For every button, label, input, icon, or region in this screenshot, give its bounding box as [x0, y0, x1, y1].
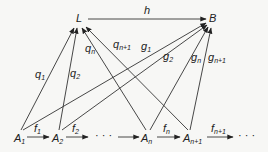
arrow-gn	[150, 27, 208, 130]
label-q1: q1	[35, 68, 45, 81]
label-g1: g1	[141, 40, 151, 53]
label-qn1: qn+1	[113, 38, 131, 51]
label-fn: fn	[163, 122, 170, 135]
label-fn1: fn+1	[211, 122, 226, 135]
label-g2: g2	[163, 50, 173, 63]
label-qn: qn	[85, 42, 95, 55]
label-q2: q2	[70, 67, 80, 80]
label-gn1: gn+1	[208, 51, 226, 64]
arrow-q1	[21, 28, 74, 130]
label-gn: gn	[191, 51, 201, 64]
label-f2: f2	[72, 122, 79, 135]
node-An1: An+1	[182, 132, 202, 145]
node-An: An	[140, 132, 152, 145]
ellipsis-1: · · ·	[95, 129, 112, 141]
node-B: B	[209, 12, 216, 24]
arrow-g2	[62, 25, 207, 130]
node-A2: A2	[51, 132, 63, 145]
node-A1: A1	[13, 132, 25, 145]
label-f1: f1	[34, 122, 41, 135]
label-h: h	[144, 4, 150, 16]
arrow-q2	[59, 28, 77, 130]
commutative-diagram: L B A1 A2 An An+1 · · · · · · h q1 q2 qn…	[0, 0, 268, 152]
node-L: L	[76, 12, 82, 24]
arrow-gn1	[190, 28, 211, 130]
ellipsis-2: · · ·	[238, 129, 255, 141]
